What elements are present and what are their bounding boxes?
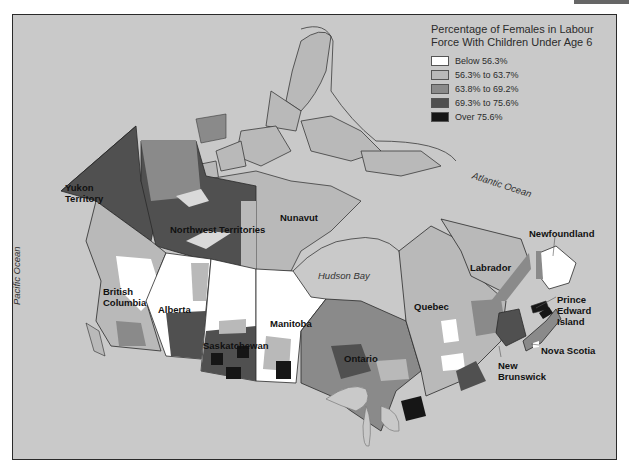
label-pei: Prince Edward Island xyxy=(557,294,591,327)
legend-item: Over 75.6% xyxy=(431,110,616,124)
page-edge-mark xyxy=(574,0,629,4)
legend-title-line2: Force With Children Under Age 6 xyxy=(431,36,616,49)
label-pei-line3: Island xyxy=(557,316,591,327)
legend-label: Over 75.6% xyxy=(455,112,503,122)
label-bc: British Columbia xyxy=(103,286,146,308)
label-yukon-line1: Yukon xyxy=(65,182,103,193)
alberta-light-patch xyxy=(191,263,209,301)
legend-swatch-mid-grey xyxy=(431,84,449,94)
label-newfoundland: Newfoundland xyxy=(529,228,594,239)
legend-title-line1: Percentage of Females in Labour xyxy=(431,23,616,36)
arctic-islands xyxy=(191,32,441,183)
legend-swatch-light-grey xyxy=(431,70,449,80)
label-nunavut: Nunavut xyxy=(280,212,318,223)
legend-item: 69.3% to 75.6% xyxy=(431,96,616,110)
label-yukon-line2: Territory xyxy=(65,193,103,204)
legend-item: 56.3% to 63.7% xyxy=(431,68,616,82)
label-manitoba: Manitoba xyxy=(270,318,312,329)
label-new-brunswick: New Brunswick xyxy=(498,360,546,382)
label-pacific-ocean: Pacific Ocean xyxy=(12,246,22,305)
label-pei-line1: Prince xyxy=(557,294,591,305)
label-quebec: Quebec xyxy=(414,301,449,312)
legend-item: Below 56.3% xyxy=(431,54,616,68)
nwt-light-patch xyxy=(241,201,256,269)
ontario-black-patch xyxy=(401,396,426,421)
label-saskatchewan: Saskatchewan xyxy=(203,340,268,351)
legend-label: 56.3% to 63.7% xyxy=(455,70,519,80)
nb-leader xyxy=(499,346,501,357)
legend-title: Percentage of Females in Labour Force Wi… xyxy=(431,23,616,49)
map-legend: Percentage of Females in Labour Force Wi… xyxy=(431,23,616,124)
label-nb-line1: New xyxy=(498,360,546,371)
label-labrador: Labrador xyxy=(470,262,511,273)
region-newfoundland xyxy=(537,246,576,289)
label-nova-scotia: Nova Scotia xyxy=(541,345,595,356)
legend-label: Below 56.3% xyxy=(455,56,508,66)
legend-swatch-black xyxy=(431,112,449,122)
alberta-dark-patch xyxy=(166,311,206,359)
legend-label: 63.8% to 69.2% xyxy=(455,84,519,94)
label-nb-line2: Brunswick xyxy=(498,371,546,382)
manitoba-dark-patch xyxy=(276,361,291,379)
label-hudson-bay: Hudson Bay xyxy=(318,270,370,281)
label-bc-line1: British xyxy=(103,286,146,297)
legend-item: 63.8% to 69.2% xyxy=(431,82,616,96)
label-bc-line2: Columbia xyxy=(103,297,146,308)
legend-swatch-dark-grey xyxy=(431,98,449,108)
sask-light-patch xyxy=(219,319,246,334)
label-nwt: Northwest Territories xyxy=(170,224,265,235)
nunavut-patch xyxy=(196,114,226,143)
legend-label: 69.3% to 75.6% xyxy=(455,98,519,108)
ontario-light-patch xyxy=(376,359,409,381)
legend-swatch-white xyxy=(431,56,449,66)
label-pei-line2: Edward xyxy=(557,305,591,316)
label-ontario: Ontario xyxy=(344,353,378,364)
label-yukon: Yukon Territory xyxy=(65,182,103,204)
label-alberta: Alberta xyxy=(158,304,191,315)
map-frame: Percentage of Females in Labour Force Wi… xyxy=(12,14,617,460)
